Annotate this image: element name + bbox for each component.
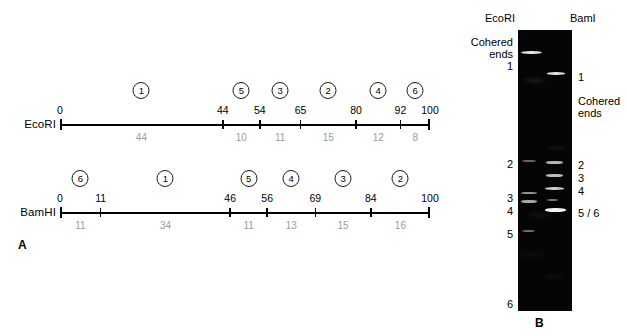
gel-right-label: 4 (578, 185, 584, 198)
gel-right-label: 1 (578, 71, 584, 84)
fragment-number-circle: 6 (407, 82, 424, 99)
gel-band-ecori (521, 200, 537, 203)
fragment-number-circle: 1 (133, 82, 150, 99)
panel-a-label: A (18, 238, 27, 252)
coordinate-label: 80 (350, 104, 362, 116)
gel-left-label: 3 (507, 192, 513, 205)
enzyme-label-ecori: EcoRI (0, 118, 56, 130)
axis-tick (266, 208, 268, 217)
gel-right-label: 2 (578, 159, 584, 172)
gel-band-bami (547, 72, 565, 75)
axis-endcap (428, 207, 430, 218)
axis-tick (100, 208, 102, 217)
panel-b-label: B (535, 316, 544, 330)
axis-tick (222, 120, 224, 129)
enzyme-label-bamhi: BamHI (0, 206, 56, 218)
fragment-number-circle: 2 (392, 170, 409, 187)
fragment-number-circle: 5 (233, 82, 250, 99)
coordinate-label: 65 (295, 104, 307, 116)
gel-left-label: ends (489, 48, 513, 61)
fragment-size-label: 34 (160, 220, 171, 231)
fragment-number-circle: 5 (240, 170, 257, 187)
panel-b-gel: EcoRIBamICoheredends1234561Coheredends23… (460, 0, 628, 335)
fragment-size-label: 12 (373, 132, 384, 143)
axis-tick (300, 120, 302, 129)
axis-line-bamhi (60, 212, 430, 214)
gel-band-bami (546, 174, 563, 177)
fragment-number-circle: 6 (72, 170, 89, 187)
fragment-size-label: 10 (236, 132, 247, 143)
coordinate-label: 100 (421, 192, 439, 204)
gel-left-label: Cohered (471, 36, 513, 49)
coordinate-label: 69 (309, 192, 321, 204)
axis-tick (355, 120, 357, 129)
axis-endcap (60, 207, 62, 218)
coordinate-label: 54 (254, 104, 266, 116)
axis-tick (229, 208, 231, 217)
fragment-size-label: 11 (243, 220, 253, 231)
gel-left-label: 4 (507, 205, 513, 218)
fragment-size-label: 13 (286, 220, 297, 231)
fragment-number-circle: 2 (320, 82, 337, 99)
fragment-number-circle: 4 (283, 170, 300, 187)
fragment-number-circle: 3 (335, 170, 352, 187)
fragment-number-circle: 4 (370, 82, 387, 99)
coordinate-label: 92 (395, 104, 407, 116)
fragment-size-label: 11 (75, 220, 85, 231)
coordinate-label: 100 (421, 104, 439, 116)
gel-left-label: 2 (507, 158, 513, 171)
axis-endcap (60, 119, 62, 130)
fragment-size-label: 8 (412, 132, 418, 143)
coordinate-label: 0 (57, 192, 63, 204)
gel-band-bami (546, 161, 563, 164)
fragment-size-label: 16 (395, 220, 406, 231)
fragment-number-circle: 3 (272, 82, 289, 99)
coordinate-label: 56 (261, 192, 273, 204)
coordinate-label: 0 (57, 104, 63, 116)
restriction-map-figure: EcoRI0445465809210014451031121541268BamH… (0, 0, 628, 335)
fragment-size-label: 44 (136, 132, 147, 143)
gel-column-header-ecori: EcoRI (485, 12, 515, 24)
fragment-size-label: 15 (323, 132, 334, 143)
gel-image (518, 30, 572, 311)
gel-band-ecori (522, 160, 536, 162)
coordinate-label: 44 (217, 104, 229, 116)
gel-left-label: 6 (507, 298, 513, 311)
gel-right-label: ends (578, 107, 602, 120)
gel-left-label: 1 (507, 60, 513, 73)
axis-tick (259, 120, 261, 129)
gel-right-label: 5 / 6 (578, 207, 599, 220)
coordinate-label: 11 (95, 192, 106, 204)
gel-column-header-bami: BamI (570, 12, 596, 24)
gel-left-label: 5 (507, 228, 513, 241)
gel-band-bami (545, 187, 564, 190)
gel-band-ecori (522, 230, 535, 232)
axis-endcap (428, 119, 430, 130)
axis-tick (315, 208, 317, 217)
axis-tick (400, 120, 402, 129)
gel-right-label: Cohered (578, 95, 620, 108)
gel-right-label: 3 (578, 172, 584, 185)
fragment-size-label: 11 (275, 132, 285, 143)
axis-line-ecori (60, 124, 430, 126)
gel-band-bami (545, 208, 566, 212)
panel-a-restriction-maps: EcoRI0445465809210014451031121541268BamH… (0, 0, 470, 335)
fragment-size-label: 15 (337, 220, 348, 231)
coordinate-label: 84 (365, 192, 377, 204)
gel-band-bami (547, 199, 558, 201)
fragment-number-circle: 1 (157, 170, 174, 187)
axis-tick (370, 208, 372, 217)
coordinate-label: 46 (224, 192, 236, 204)
